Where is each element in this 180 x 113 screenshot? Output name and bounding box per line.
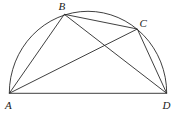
geometry-diagram: A B C D xyxy=(0,0,180,113)
segment-AB xyxy=(9,14,64,93)
segment-CD xyxy=(137,29,166,93)
point-label-C: C xyxy=(140,17,148,29)
segment-AC xyxy=(9,29,137,93)
point-label-A: A xyxy=(4,99,12,111)
point-label-B: B xyxy=(59,0,66,12)
segment-BD xyxy=(64,14,166,93)
point-label-D: D xyxy=(162,99,171,111)
